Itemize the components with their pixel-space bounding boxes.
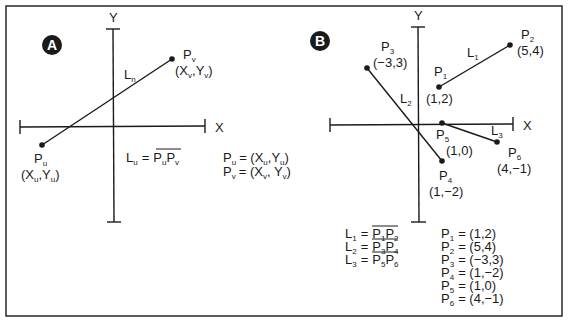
point-p6-coord: (4,−1): [497, 161, 531, 176]
y-axis-a: [106, 29, 121, 222]
line-l1-label: L1: [467, 45, 479, 62]
point-pv: [169, 56, 175, 62]
point-pu-coord: (Xu,Yu): [21, 167, 60, 184]
point-p1-label: P1: [434, 64, 448, 81]
line-l3: [442, 123, 497, 142]
point-p4-coord: (1,−2): [429, 184, 463, 199]
point-p3-coord: (−3,3): [373, 55, 407, 70]
point-p6: [494, 139, 500, 145]
line-l2: [367, 68, 442, 161]
point-p3: [364, 65, 370, 71]
point-pv-coord: (Xv,Yv): [175, 63, 213, 80]
point-p2: [507, 42, 513, 48]
x-axis-label-b: X: [523, 118, 532, 133]
line-l2-label: L2: [400, 91, 412, 108]
point-p5-label: P5: [436, 127, 450, 144]
point-p5: [439, 120, 445, 126]
point-p6-label: P6: [508, 145, 522, 162]
point-p2-coord: (5,4): [517, 43, 544, 58]
point-pv-label: Pv: [183, 47, 196, 64]
line-ln-label: Ln: [124, 67, 136, 84]
svg-text:B: B: [315, 33, 325, 49]
y-axis-label-b: Y: [414, 8, 423, 23]
line-definitions: L1=P1P2 L2=P3P4 L3=P5P6: [345, 226, 399, 269]
line-l3-label: L3: [491, 123, 503, 140]
x-axis-a: [20, 119, 205, 134]
point-p3-label: P3: [381, 39, 395, 56]
point-p5-coord: (1,0): [446, 143, 473, 158]
diagram-canvas: A Y X Ln Pv (Xv,Yv) Pu (Xu,Yu) Lu=PuPv: [0, 0, 570, 327]
badge-a: A: [42, 35, 62, 55]
panel-b: B Y X L1 L2 L3 P1 (1,2): [310, 8, 544, 308]
svg-text:A: A: [47, 37, 57, 53]
x-axis-b: [330, 117, 513, 132]
point-p1: [436, 84, 442, 90]
panel-a: A Y X Ln Pv (Xv,Yv) Pu (Xu,Yu) Lu=PuPv: [20, 10, 291, 222]
y-axis-label-a: Y: [109, 10, 118, 25]
point-p4-label: P4: [439, 168, 453, 185]
point-p4: [439, 158, 445, 164]
point-p1-coord: (1,2): [426, 91, 453, 106]
line-l1: [439, 45, 510, 87]
x-axis-label-a: X: [215, 120, 224, 135]
point-legend: P1= (1,2) P2= (5,4) P3= (−3,3) P4= (1,−2…: [441, 226, 504, 308]
definition-lu: Lu=PuPv: [126, 150, 179, 167]
point-p2-label: P2: [521, 27, 535, 44]
line-ln: [42, 59, 172, 145]
badge-b: B: [310, 31, 330, 51]
point-pu-label: Pu: [34, 151, 47, 168]
point-pu: [39, 142, 45, 148]
